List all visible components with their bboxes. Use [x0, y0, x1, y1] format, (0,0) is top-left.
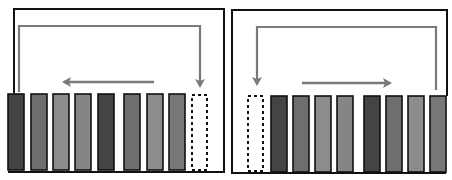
slot-dark [271, 96, 287, 172]
circular-shift-diagram [0, 0, 452, 180]
right-panel [232, 10, 447, 173]
slot-light [337, 96, 353, 172]
slot-mid [386, 96, 402, 172]
slot-mid [124, 94, 140, 170]
slot-mid [293, 96, 309, 172]
slot-light [147, 94, 163, 170]
slot-dark [98, 94, 114, 170]
slot-light [315, 96, 331, 172]
slot-mid [31, 94, 47, 170]
slot-mid [430, 96, 446, 172]
slot-empty-dotted [192, 95, 207, 170]
slot-light [53, 94, 69, 170]
slot-empty-dotted [248, 96, 263, 171]
slot-dark [8, 94, 24, 170]
slot-light [75, 94, 91, 170]
left-panel [8, 9, 224, 172]
slot-mid [169, 94, 185, 170]
right-loop-arrow [257, 27, 436, 90]
slot-dark [364, 96, 380, 172]
slot-light [408, 96, 424, 172]
